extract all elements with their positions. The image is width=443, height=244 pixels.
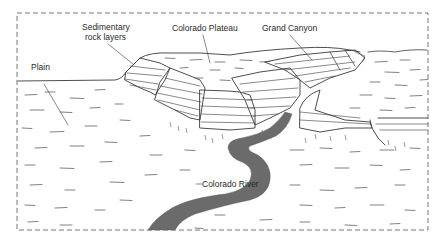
hatch-mark bbox=[55, 208, 67, 209]
hatch-mark bbox=[110, 182, 124, 183]
hatch-mark bbox=[395, 85, 407, 86]
talus-tick bbox=[212, 138, 213, 143]
hatch-mark bbox=[120, 120, 130, 121]
rock-layers-left bbox=[125, 58, 170, 95]
hatch-mark bbox=[235, 68, 243, 69]
hatch-mark bbox=[345, 225, 357, 226]
hatch-mark bbox=[385, 72, 399, 73]
hatch-mark bbox=[120, 200, 132, 201]
label-plain: Plain bbox=[31, 62, 50, 72]
label-sedimentary-line2: rock layers bbox=[85, 32, 126, 42]
grand-canyon-diagram: Sedimentary rock layers Colorado Plateau… bbox=[0, 0, 443, 244]
hatch-mark bbox=[165, 58, 175, 59]
hatch-mark bbox=[410, 70, 420, 71]
hatch-mark bbox=[410, 96, 422, 97]
hatch-mark bbox=[380, 110, 392, 111]
hatch-mark bbox=[190, 60, 202, 61]
talus-tick bbox=[345, 135, 346, 140]
hatch-mark bbox=[60, 112, 72, 113]
hatch-mark bbox=[300, 165, 312, 166]
hatch-mark bbox=[240, 60, 252, 61]
hatch-mark bbox=[180, 68, 188, 69]
talus-tick bbox=[178, 126, 179, 131]
hatch-mark bbox=[385, 98, 395, 99]
hatch-mark bbox=[185, 150, 195, 151]
plateau-leader-line bbox=[203, 35, 210, 63]
talus-tick bbox=[395, 146, 396, 151]
talus-tick bbox=[388, 140, 389, 145]
hatch-mark bbox=[50, 132, 64, 133]
sedimentary-leader-line bbox=[108, 44, 133, 64]
hatch-mark bbox=[400, 170, 410, 171]
far-horizon bbox=[368, 50, 427, 52]
hatch-mark bbox=[350, 152, 360, 153]
hatch-mark bbox=[410, 148, 420, 149]
hatch-mark bbox=[195, 228, 203, 229]
talus-tick bbox=[222, 134, 223, 139]
hatch-mark bbox=[22, 128, 32, 129]
label-colorado-plateau: Colorado Plateau bbox=[172, 23, 238, 33]
hatch-mark bbox=[370, 165, 382, 166]
talus-tick bbox=[170, 122, 171, 127]
plain-leader-line bbox=[44, 84, 68, 125]
talus-tick bbox=[404, 142, 405, 147]
talus-tick bbox=[205, 135, 206, 140]
hatch-mark bbox=[405, 210, 415, 211]
talus-tick bbox=[186, 128, 187, 133]
hatch-mark bbox=[25, 95, 37, 96]
hatch-mark bbox=[420, 80, 428, 81]
talus-tick bbox=[315, 134, 316, 139]
hatch-mark bbox=[140, 136, 150, 137]
hatch-mark bbox=[320, 148, 332, 149]
rock-layers-mid-left bbox=[155, 68, 205, 120]
hatch-mark bbox=[260, 62, 270, 63]
hatch-mark bbox=[375, 62, 387, 63]
hatch-mark bbox=[90, 108, 100, 109]
rock-layers-lower-right bbox=[300, 90, 428, 145]
rock-layers-center bbox=[200, 90, 255, 130]
hatch-mark bbox=[320, 190, 334, 191]
hatch-mark bbox=[355, 188, 367, 189]
talus-tick bbox=[305, 138, 306, 143]
label-sedimentary-line1: Sedimentary bbox=[82, 22, 130, 32]
hatch-mark bbox=[25, 205, 35, 206]
hatch-mark bbox=[335, 208, 345, 209]
hatch-mark bbox=[30, 185, 42, 186]
hatch-mark bbox=[28, 222, 38, 223]
hatch-mark bbox=[260, 220, 272, 221]
label-grand-canyon: Grand Canyon bbox=[262, 23, 318, 33]
hatch-mark bbox=[220, 80, 230, 81]
hatch-mark bbox=[35, 148, 47, 149]
hatch-mark bbox=[70, 98, 84, 99]
talus-tick bbox=[330, 136, 331, 141]
hatch-mark bbox=[300, 205, 312, 206]
hatch-mark bbox=[405, 108, 415, 109]
hatch-mark bbox=[105, 142, 117, 143]
hatch-mark bbox=[145, 175, 157, 176]
hatch-mark bbox=[60, 168, 74, 169]
hatch-mark bbox=[100, 162, 112, 163]
hatch-mark bbox=[390, 224, 400, 225]
hatch-mark bbox=[95, 90, 105, 91]
label-colorado-river: Colorado River bbox=[202, 179, 259, 189]
